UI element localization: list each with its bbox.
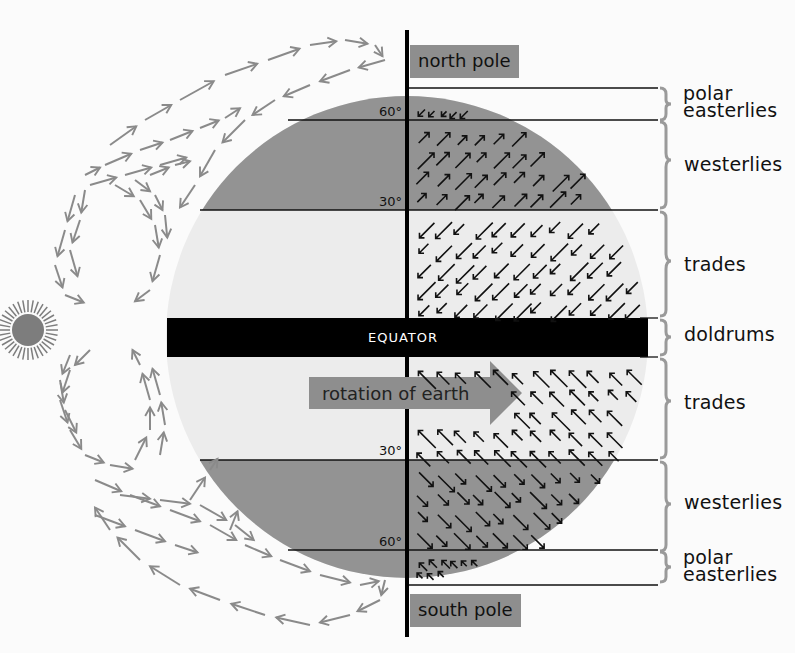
diagram-canvas: [0, 0, 795, 653]
belt-label-doldrums: doldrums: [684, 325, 775, 344]
equator-label: EQUATOR: [368, 330, 438, 345]
wind-belts-diagram: north pole south pole EQUATOR rotation o…: [0, 0, 795, 653]
belt-label-westerlies-north: westerlies: [684, 155, 782, 174]
south-dark-band: [160, 460, 660, 585]
latitude-60s-label: 60°: [362, 534, 402, 549]
belt-label-polar-easterlies-south: polar easterlies: [683, 549, 777, 583]
belt-label-trades-north: trades: [684, 255, 746, 274]
north-pole-label: north pole: [410, 45, 519, 78]
latitude-30s-label: 30°: [362, 443, 402, 458]
south-pole-label: south pole: [410, 594, 521, 627]
belt-label-line: easterlies: [683, 566, 777, 583]
north-dark-band: [160, 88, 660, 210]
belt-label-line: easterlies: [683, 102, 777, 119]
latitude-30n-label: 30°: [362, 194, 402, 209]
belt-label-trades-south: trades: [684, 393, 746, 412]
belt-braces: [660, 88, 671, 582]
belt-label-polar-easterlies-north: polar easterlies: [683, 85, 777, 119]
sun-icon: [0, 300, 58, 360]
belt-label-westerlies-south: westerlies: [684, 493, 782, 512]
rotation-label: rotation of earth: [322, 383, 469, 404]
latitude-60n-label: 60°: [362, 104, 402, 119]
